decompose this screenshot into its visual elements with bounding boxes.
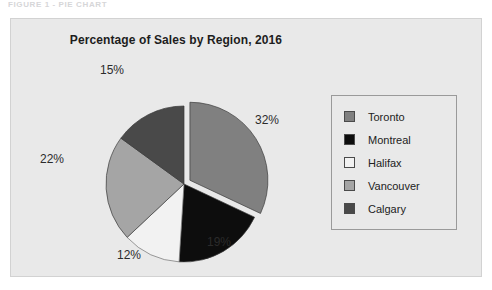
legend-swatch-calgary — [344, 203, 355, 214]
legend-swatch-vancouver — [344, 180, 355, 191]
slice-label-toronto: 32% — [255, 113, 279, 127]
legend-item-calgary[interactable]: Calgary — [344, 197, 446, 220]
chart-panel: Percentage of Sales by Region, 2016 32% … — [10, 18, 482, 277]
legend-label-calgary: Calgary — [368, 203, 406, 215]
legend-item-montreal[interactable]: Montreal — [344, 128, 446, 151]
slice-label-halifax: 12% — [117, 248, 141, 262]
slice-label-montreal: 19% — [207, 235, 231, 249]
legend-label-vancouver: Vancouver — [368, 180, 420, 192]
figure-caption: FIGURE 1 - PIE CHART — [8, 0, 178, 9]
legend-item-halifax[interactable]: Halifax — [344, 151, 446, 174]
legend-swatch-toronto — [344, 111, 355, 122]
legend-label-halifax: Halifax — [368, 157, 402, 169]
legend-label-toronto: Toronto — [368, 111, 405, 123]
slice-label-calgary: 15% — [100, 63, 124, 77]
pie-chart-svg — [11, 19, 341, 278]
legend-swatch-halifax — [344, 157, 355, 168]
legend-item-toronto[interactable]: Toronto — [344, 105, 446, 128]
legend-swatch-montreal — [344, 134, 355, 145]
pie-chart: 32% 19% 12% 22% 15% — [11, 19, 341, 278]
legend-label-montreal: Montreal — [368, 134, 411, 146]
chart-legend: Toronto Montreal Halifax Vancouver Calga… — [331, 95, 457, 230]
legend-item-vancouver[interactable]: Vancouver — [344, 174, 446, 197]
pie-slices-group — [106, 102, 268, 262]
slice-label-vancouver: 22% — [40, 152, 64, 166]
